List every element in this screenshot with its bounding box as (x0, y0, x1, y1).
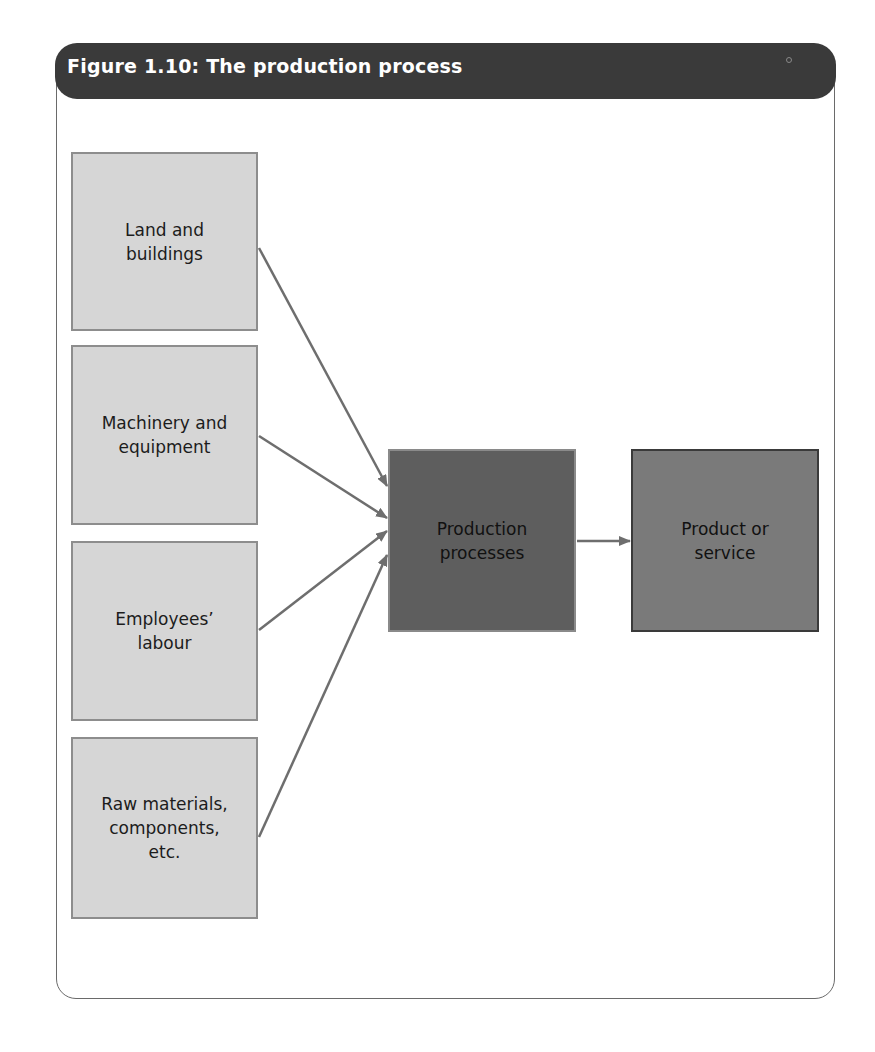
header-dot-decoration (786, 57, 792, 63)
input-box-land: Land and buildings (71, 152, 258, 331)
input-box-machinery: Machinery and equipment (71, 345, 258, 525)
input-box-raw-materials: Raw materials, components, etc. (71, 737, 258, 919)
output-box: Product or service (631, 449, 819, 632)
process-box: Production processes (388, 449, 576, 632)
figure-header: Figure 1.10: The production process (55, 43, 836, 99)
input-box-labour: Employees’ labour (71, 541, 258, 721)
figure-title: Figure 1.10: The production process (67, 55, 463, 77)
